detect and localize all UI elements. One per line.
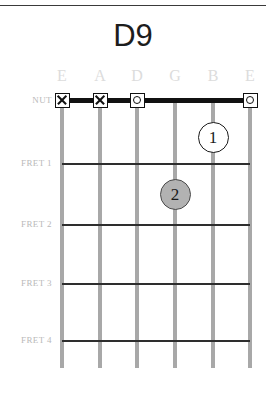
fret-line-fret-1 xyxy=(62,163,250,165)
finger-dot-2: 2 xyxy=(160,179,191,210)
string-low-e xyxy=(60,100,64,368)
muted-string-icon-a xyxy=(93,93,108,108)
fretboard: 12 xyxy=(0,0,266,403)
marker-glyph xyxy=(131,94,144,107)
open-string-icon-d xyxy=(130,93,145,108)
finger-dot-1: 1 xyxy=(198,122,229,153)
marker-glyph xyxy=(94,94,107,107)
string-g xyxy=(173,100,177,368)
fret-line-fret-2 xyxy=(62,224,250,226)
open-string-icon-high-e xyxy=(243,93,258,108)
fret-line-fret-4 xyxy=(62,340,250,342)
muted-string-icon-low-e xyxy=(55,93,70,108)
marker-glyph xyxy=(56,94,69,107)
nut-line xyxy=(62,98,250,103)
fret-line-fret-3 xyxy=(62,283,250,285)
string-d xyxy=(135,100,139,368)
chord-diagram: D9 EADGBE NUTFRET 1FRET 2FRET 3FRET 4 12 xyxy=(0,0,266,403)
marker-glyph xyxy=(244,94,257,107)
string-high-e xyxy=(248,100,252,368)
string-a xyxy=(98,100,102,368)
